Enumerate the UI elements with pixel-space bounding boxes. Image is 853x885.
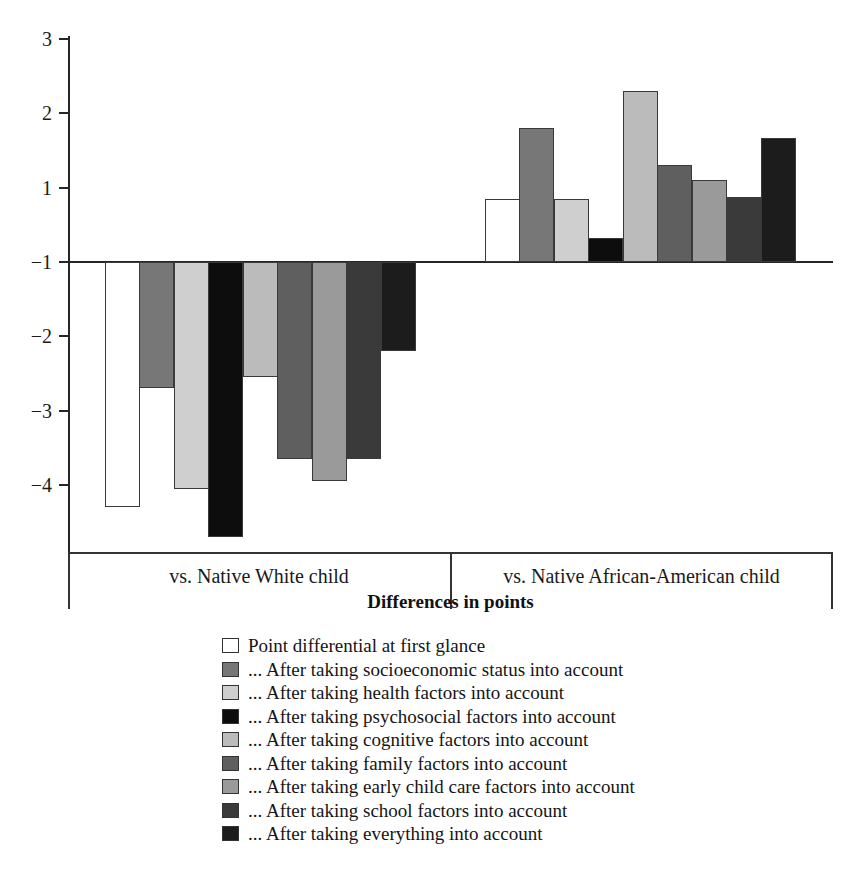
legend-label: ... After taking everything into account bbox=[248, 822, 542, 845]
y-axis-tick-mark bbox=[59, 38, 69, 40]
legend-swatch bbox=[222, 638, 239, 653]
legend-swatch bbox=[222, 826, 239, 841]
legend-item: ... After taking everything into account bbox=[222, 822, 742, 846]
y-axis-tick-label: −2 bbox=[4, 326, 52, 346]
legend-label: ... After taking cognitive factors into … bbox=[248, 728, 588, 751]
legend-item: ... After taking family factors into acc… bbox=[222, 752, 742, 776]
group-label-native-african-american: vs. Native African-American child bbox=[450, 563, 833, 589]
bar bbox=[105, 262, 140, 507]
y-axis-tick-label: −4 bbox=[4, 475, 52, 495]
bar bbox=[657, 165, 692, 262]
bar bbox=[692, 180, 727, 262]
legend-item: ... After taking cognitive factors into … bbox=[222, 728, 742, 752]
bar bbox=[381, 262, 416, 351]
plot-area: 321−1−2−3−4 vs. Native White child vs. N… bbox=[0, 0, 853, 620]
bar bbox=[139, 262, 174, 388]
legend-swatch bbox=[222, 662, 239, 677]
y-axis-tick-mark bbox=[59, 410, 69, 412]
legend-item: ... After taking health factors into acc… bbox=[222, 681, 742, 705]
bar-chart-figure: 321−1−2−3−4 vs. Native White child vs. N… bbox=[0, 0, 853, 885]
legend-label: Point differential at first glance bbox=[248, 634, 485, 657]
y-axis-tick-mark bbox=[59, 261, 69, 263]
bar bbox=[485, 199, 520, 262]
bar bbox=[519, 128, 554, 262]
legend-swatch bbox=[222, 803, 239, 818]
bar bbox=[174, 262, 209, 489]
bar bbox=[312, 262, 347, 481]
y-axis-tick-mark bbox=[59, 112, 69, 114]
legend-swatch bbox=[222, 685, 239, 700]
bar bbox=[208, 262, 243, 537]
legend-label: ... After taking school factors into acc… bbox=[248, 799, 567, 822]
bar bbox=[726, 197, 761, 262]
legend-item: ... After taking psychosocial factors in… bbox=[222, 705, 742, 729]
legend-item: ... After taking socioeconomic status in… bbox=[222, 658, 742, 682]
y-axis-tick-label: 3 bbox=[4, 29, 52, 49]
y-axis-tick-label: −1 bbox=[4, 252, 52, 272]
legend-swatch bbox=[222, 756, 239, 771]
y-axis-tick-mark bbox=[59, 484, 69, 486]
legend-swatch bbox=[222, 779, 239, 794]
y-axis-tick-mark bbox=[59, 335, 69, 337]
legend-swatch bbox=[222, 732, 239, 747]
group-label-native-white: vs. Native White child bbox=[68, 563, 450, 589]
bar bbox=[588, 238, 623, 262]
legend-label: ... After taking socioeconomic status in… bbox=[248, 658, 623, 681]
y-axis-tick-label: 2 bbox=[4, 103, 52, 123]
bar bbox=[623, 91, 658, 262]
y-axis-tick-mark bbox=[59, 187, 69, 189]
bar bbox=[761, 138, 796, 262]
bar bbox=[346, 262, 381, 459]
legend-label: ... After taking early child care factor… bbox=[248, 775, 635, 798]
y-axis-line bbox=[68, 36, 70, 609]
y-axis-tick-label: 1 bbox=[4, 178, 52, 198]
bar bbox=[554, 199, 589, 262]
legend-label: ... After taking psychosocial factors in… bbox=[248, 705, 616, 728]
legend-swatch bbox=[222, 709, 239, 724]
legend-item: Point differential at first glance bbox=[222, 634, 742, 658]
legend-item: ... After taking early child care factor… bbox=[222, 775, 742, 799]
y-axis-tick-label: −3 bbox=[4, 401, 52, 421]
legend-item: ... After taking school factors into acc… bbox=[222, 799, 742, 823]
chart-legend: Point differential at first glance... Af… bbox=[222, 634, 742, 846]
legend-label: ... After taking health factors into acc… bbox=[248, 681, 564, 704]
bar bbox=[277, 262, 312, 459]
legend-label: ... After taking family factors into acc… bbox=[248, 752, 567, 775]
bar bbox=[243, 262, 278, 377]
x-axis-title: Differences in points bbox=[68, 591, 833, 613]
